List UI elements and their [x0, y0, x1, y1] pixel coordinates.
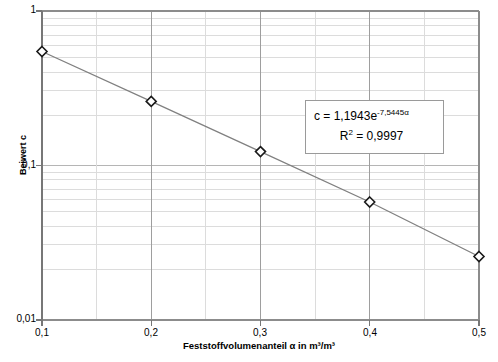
- y-tick-label-0-01: 0,01: [0, 313, 36, 324]
- plot-area-svg: [0, 0, 498, 362]
- x-tick-label-0-3: 0,3: [240, 327, 280, 338]
- data-point-marker: [37, 47, 47, 57]
- data-point-marker: [146, 96, 156, 106]
- data-point-marker: [365, 197, 375, 207]
- trendline-equation-box: c = 1,1943e-7,5445α R2 = 0,9997: [305, 100, 444, 154]
- equation-exponent: -7,5445α: [377, 108, 409, 117]
- y-axis-title: Beiwert c: [18, 110, 28, 200]
- y-axis: [36, 11, 42, 320]
- x-tick-label-0-4: 0,4: [350, 327, 390, 338]
- data-point-marker: [474, 252, 484, 262]
- x-tick-label-0-2: 0,2: [131, 327, 171, 338]
- r-squared-line: R2 = 0,9997: [306, 128, 443, 144]
- x-axis-title: Feststoffvolumenanteil α in m³/m³: [0, 340, 498, 351]
- x-axis-ticks: [42, 320, 479, 326]
- x-tick-label-0-1: 0,1: [22, 327, 62, 338]
- chart-container: 1 0,1 0,01 0,1 0,2 0,3 0,4 0,5 Beiwert c…: [0, 0, 498, 362]
- equation-line: c = 1,1943e-7,5445α: [306, 108, 443, 124]
- equation-expression: c = 1,1943e: [314, 109, 377, 123]
- data-point-marker: [256, 147, 266, 157]
- x-tick-label-0-5: 0,5: [459, 327, 498, 338]
- y-tick-label-1: 1: [0, 4, 36, 15]
- r-squared-value: = 0,9997: [353, 129, 403, 143]
